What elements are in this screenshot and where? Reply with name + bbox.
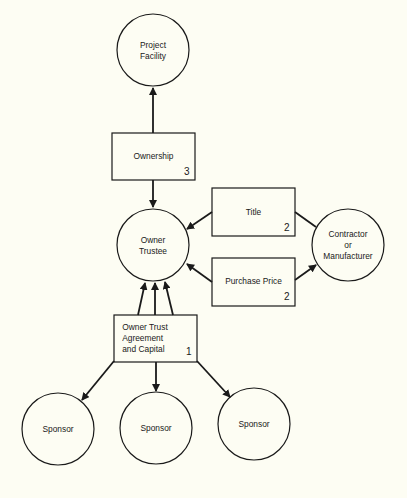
title-label: Title bbox=[217, 206, 290, 217]
owner-trust-label: Owner Trust Agreement and Capital bbox=[122, 321, 184, 354]
owner-trustee-label: Owner Trustee bbox=[121, 234, 184, 256]
title-number: 2 bbox=[284, 222, 290, 233]
contractor-label: Contractor or Manufacturer bbox=[315, 228, 382, 261]
owner-trust-number: 1 bbox=[186, 346, 192, 357]
ownership-number: 3 bbox=[184, 166, 190, 177]
arrow-trust-to-sponsor-3 bbox=[197, 361, 230, 397]
sponsor-label-3: Sponsor bbox=[222, 418, 285, 429]
arrow-trust-to-sponsor-1 bbox=[82, 361, 114, 400]
sponsor-label-2: Sponsor bbox=[124, 422, 187, 433]
sponsor-label-1: Sponsor bbox=[26, 423, 89, 434]
arrow-trust-to-trustee-1 bbox=[138, 283, 145, 315]
line-contractor-to-title bbox=[295, 212, 316, 227]
arrow-title-to-trustee bbox=[187, 212, 212, 229]
purchase-price-number: 2 bbox=[284, 291, 290, 302]
arrow-trust-to-trustee-3 bbox=[165, 282, 173, 315]
purchase-price-label: Purchase Price bbox=[217, 275, 290, 286]
ownership-label: Ownership bbox=[117, 150, 190, 161]
arrow-price-to-trustee bbox=[187, 264, 212, 282]
arrow-price-to-contractor bbox=[295, 265, 316, 280]
project-facility-label: Project Facility bbox=[121, 39, 184, 61]
